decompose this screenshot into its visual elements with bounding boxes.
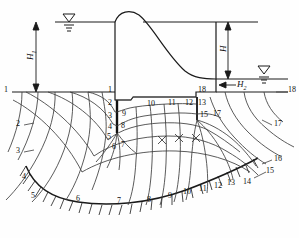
eq-9 — [117, 133, 120, 170]
label-eq-15-right: 15 — [266, 167, 274, 175]
label-base-bottom-6: 6 — [76, 195, 80, 203]
label-cutoff-2: 2 — [108, 99, 112, 107]
label-eq-3-left: 3 — [16, 147, 20, 155]
leader-3 — [24, 150, 34, 152]
eq-14 — [174, 103, 180, 202]
water-level-symbol-downstream — [258, 66, 270, 83]
label-dcutoff-18: 18 — [198, 86, 206, 94]
label-base-bottom-12: 12 — [214, 182, 222, 190]
label-eq-17-right: 17 — [274, 120, 282, 128]
eq-22 — [264, 92, 283, 122]
impervious-hatching — [20, 159, 258, 215]
eq-13 — [160, 104, 166, 205]
label-eq-5-left: 5 — [31, 192, 35, 200]
label-eq-14-right: 14 — [243, 178, 251, 186]
flow-line-4c — [208, 130, 240, 152]
label-cutoff-1: 1 — [108, 86, 112, 94]
label-base-bottom-10: 10 — [183, 188, 191, 196]
dimension-label-H2: H2 — [237, 80, 247, 91]
label-boundary-1-left: 1 — [4, 86, 8, 94]
label-boundary-18-right: 18 — [288, 86, 296, 94]
label-dcutoff-15: 15 — [200, 111, 208, 119]
label-base-bottom-11: 11 — [199, 185, 207, 193]
eq-5 — [18, 92, 38, 160]
label-base-bottom-8: 8 — [147, 196, 151, 204]
label-base-bottom-7: 7 — [117, 197, 121, 205]
impervious-boundary — [26, 158, 258, 204]
eq-4 — [6, 92, 55, 200]
check-x-2 — [175, 134, 183, 142]
eq-19 — [210, 97, 266, 164]
equipotential-lines — [6, 92, 294, 205]
eq-12 — [146, 105, 152, 205]
leader-17 — [262, 120, 272, 125]
label-cutoff-5: 5 — [107, 133, 111, 141]
flow-line-5 — [26, 92, 94, 156]
label-eq-16-right: 16 — [274, 155, 282, 163]
figure-canvas: H1 H H2 1 18 2 3 4 5 17 16 15 14 1 2 3 4… — [0, 0, 299, 238]
label-base-bottom-13: 13 — [227, 179, 235, 187]
label-base-10: 10 — [147, 100, 155, 108]
label-cutoff-7: 7 — [121, 141, 125, 149]
label-dcutoff-13: 13 — [198, 99, 206, 107]
dimension-label-H: H — [219, 46, 228, 53]
label-cutoff-8: 8 — [121, 122, 125, 130]
label-cutoff-3: 3 — [108, 112, 112, 120]
eq-11 — [128, 107, 137, 205]
label-base-12: 12 — [185, 99, 193, 107]
eq-2 — [66, 92, 90, 200]
label-base-bottom-9: 9 — [168, 192, 172, 200]
dimension-H2 — [219, 82, 236, 88]
dimension-label-H1: H1 — [26, 51, 37, 61]
check-x-1 — [158, 136, 166, 144]
eq-21 — [244, 92, 294, 147]
label-eq-2-left: 2 — [16, 120, 20, 128]
label-cutoff-9: 9 — [122, 110, 126, 118]
label-base-11: 11 — [168, 99, 176, 107]
label-eq-4-left: 4 — [22, 173, 26, 181]
eq-17 — [197, 120, 233, 179]
label-cutoff-6: 6 — [112, 143, 116, 151]
label-cutoff-4: 4 — [108, 123, 112, 131]
label-dcutoff-17: 17 — [213, 110, 221, 118]
